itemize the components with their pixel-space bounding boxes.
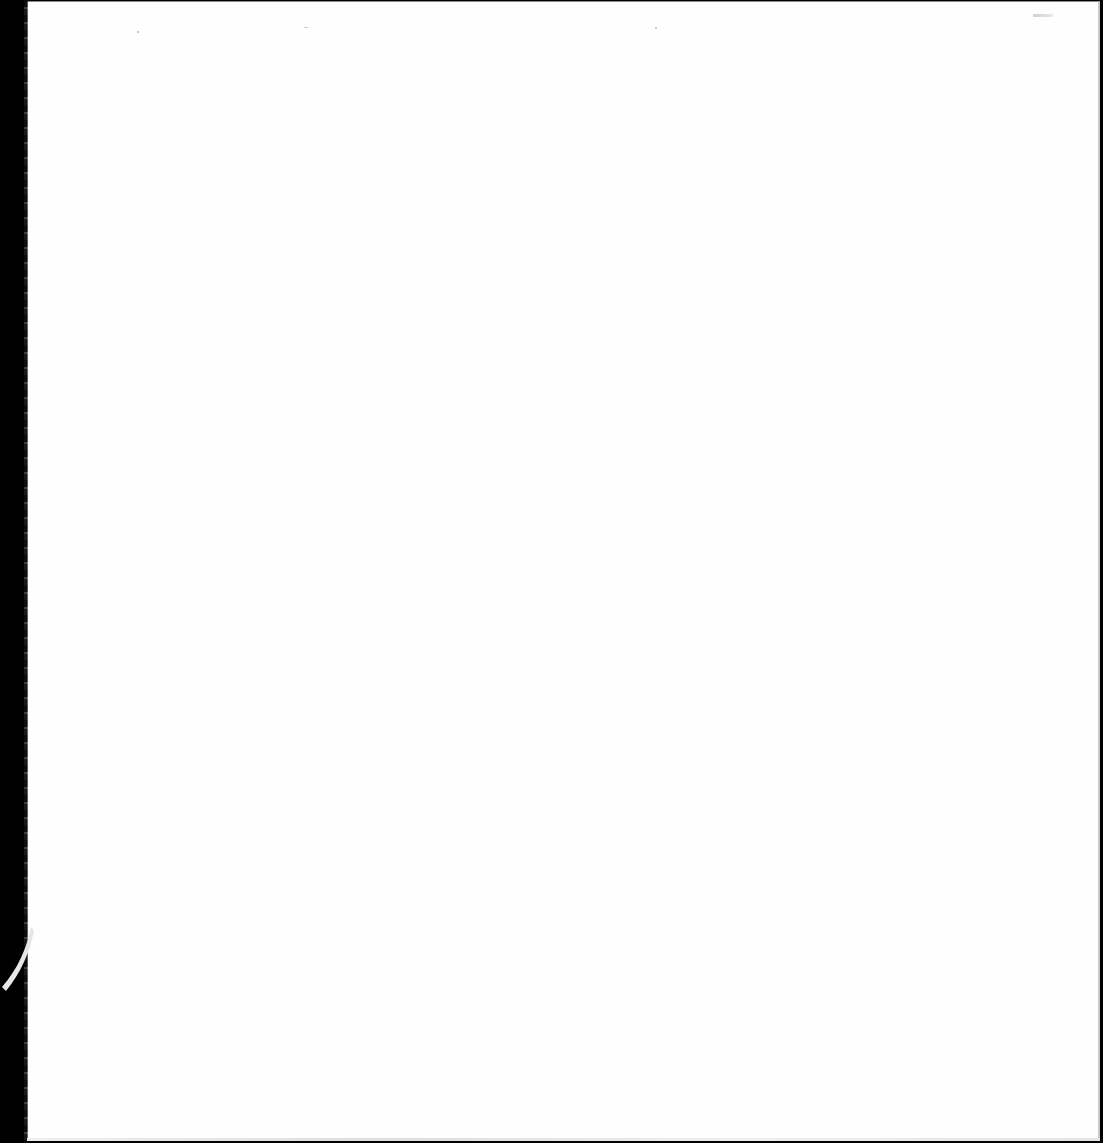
scan-smudge	[1033, 14, 1053, 17]
scan-speck	[304, 27, 308, 28]
scan-speck	[137, 31, 139, 33]
scan-speck	[655, 27, 657, 29]
page-bottom-edge	[27, 1138, 1100, 1141]
scanned-document	[0, 0, 1103, 1143]
page-left-edge	[24, 0, 28, 1143]
blank-page	[27, 1, 1100, 1141]
